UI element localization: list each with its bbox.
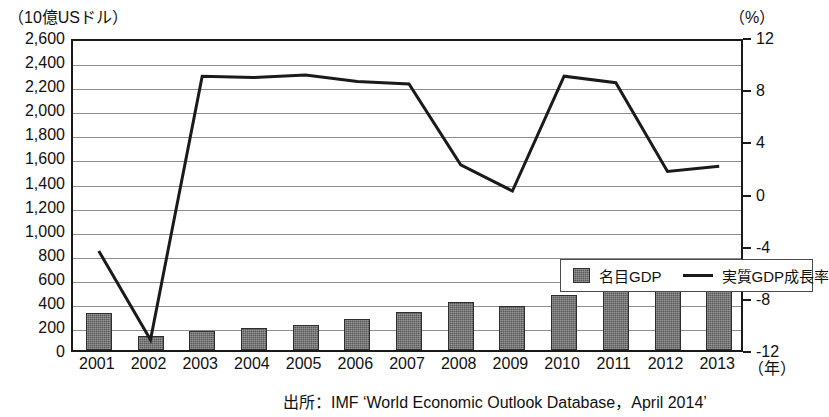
- x-axis-tick-label: 2002: [131, 355, 167, 373]
- y2-axis-tick-mark: [743, 90, 751, 92]
- y-axis-tick-label: 1,400: [25, 175, 65, 193]
- left-axis-ticks: 02004006008001,0001,2001,4001,6001,8002,…: [0, 39, 65, 352]
- y2-axis-tick-mark: [743, 142, 751, 144]
- y-axis-tick-label: 200: [38, 319, 65, 337]
- source-note: 出所：IMF ‘World Economic Outlook Database，…: [283, 389, 707, 413]
- y-axis-tick-label: 400: [38, 295, 65, 313]
- y2-axis-tick-label: 0: [756, 187, 765, 205]
- y-axis-tick-label: 800: [38, 247, 65, 265]
- x-axis-tick-label: 2007: [389, 355, 425, 373]
- x-axis-tick-label: 2006: [338, 355, 374, 373]
- y-axis-tick-label: 2,200: [25, 78, 65, 96]
- legend-bar-label: 名目GDP: [599, 265, 662, 286]
- y2-axis-tick-label: 12: [756, 30, 774, 48]
- y-axis-tick-label: 0: [56, 343, 65, 361]
- y2-axis-tick-mark: [743, 195, 751, 197]
- x-axis-tick-label: 2012: [648, 355, 684, 373]
- x-axis-tick-label: 2013: [699, 355, 735, 373]
- y-axis-tick-label: 2,600: [25, 30, 65, 48]
- x-axis-tick-label: 2004: [234, 355, 270, 373]
- line-series-real-gdp-growth: [73, 41, 745, 354]
- x-axis-ticks: 2001200220032004200520062007200820092010…: [71, 355, 743, 379]
- y2-axis-tick-label: 8: [756, 82, 765, 100]
- y2-axis-tick-mark: [743, 351, 751, 353]
- y2-axis-tick-mark: [743, 247, 751, 249]
- chart-legend: 名目GDP 実質GDP成長率: [560, 259, 813, 292]
- y2-axis-tick-label: -8: [756, 291, 770, 309]
- plot-area: 名目GDP 実質GDP成長率: [71, 39, 743, 352]
- y-axis-tick-label: 2,400: [25, 54, 65, 72]
- line-path: [99, 75, 719, 340]
- right-axis-ticks: -12-8-404812: [748, 39, 804, 352]
- y-axis-tick-label: 1,200: [25, 199, 65, 217]
- y-axis-tick-label: 1,000: [25, 223, 65, 241]
- legend-line-swatch-icon: [683, 274, 713, 277]
- x-axis-tick-label: 2008: [441, 355, 477, 373]
- x-axis-tick-label: 2005: [286, 355, 322, 373]
- x-axis-tick-label: 2011: [597, 355, 631, 373]
- x-axis-tick-label: 2010: [544, 355, 580, 373]
- x-axis-tick-label: 2003: [182, 355, 218, 373]
- y2-axis-tick-mark: [743, 38, 751, 40]
- left-axis-caption: （10億USドル）: [8, 4, 128, 28]
- legend-bar-swatch-icon: [573, 268, 590, 283]
- right-axis-caption: （%）: [729, 4, 775, 28]
- x-axis-tick-label: 2001: [79, 355, 115, 373]
- y-axis-tick-label: 2,000: [25, 102, 65, 120]
- x-axis-tick-label: 2009: [493, 355, 529, 373]
- y2-axis-tick-label: -4: [756, 239, 770, 257]
- y2-axis-tick-mark: [743, 299, 751, 301]
- y-axis-tick-label: 600: [38, 271, 65, 289]
- x-axis-unit-label: （年）: [748, 355, 796, 379]
- legend-line-label: 実質GDP成長率: [722, 265, 829, 286]
- y2-axis-tick-label: 4: [756, 134, 765, 152]
- y-axis-tick-label: 1,600: [25, 150, 65, 168]
- y-axis-tick-label: 1,800: [25, 126, 65, 144]
